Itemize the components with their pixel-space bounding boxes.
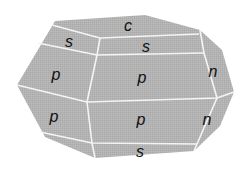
face-label-p-lower-middle: p (136, 111, 146, 128)
face-label-p-lower-left: p (49, 108, 59, 125)
face-label-c: c (124, 17, 132, 34)
face-label-s-bottom: s (136, 143, 144, 160)
crystal-diagram: cssppnppns (0, 0, 252, 173)
face-label-p-upper-middle: p (137, 69, 147, 86)
face-label-n-lower: n (203, 111, 212, 128)
face-label-s-upper-left: s (65, 33, 73, 50)
face-label-p-upper-left: p (51, 66, 61, 83)
face-label-n-upper: n (209, 63, 218, 80)
face-label-s-upper-middle: s (142, 38, 150, 55)
